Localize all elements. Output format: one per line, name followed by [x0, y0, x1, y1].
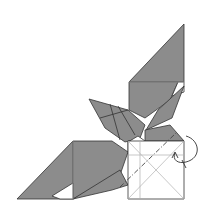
origami-figure: [0, 0, 224, 216]
origami-diagram: [0, 0, 224, 216]
upper-point-flap: [129, 24, 184, 82]
